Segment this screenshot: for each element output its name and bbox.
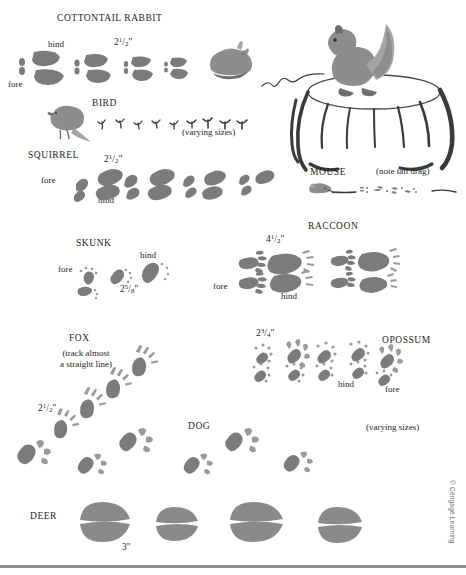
species-label-skunk: SKUNK (76, 239, 111, 249)
opossum-track-group (250, 340, 405, 388)
bird-track-group (96, 115, 248, 135)
species-label-mouse: MOUSE (310, 168, 346, 178)
opossum-measurement: 23/4" (256, 329, 274, 339)
species-label-raccoon: RACCOON (308, 222, 358, 232)
species-label-dog: DOG (188, 422, 210, 432)
rabbit-track-group (14, 44, 194, 89)
opossum-meas-num: 3 (261, 327, 265, 335)
skunk-track-group (68, 258, 178, 300)
squirrel-fore-label: fore (41, 176, 56, 185)
dog-note: (varying sizes) (366, 423, 419, 432)
bottom-rule (0, 565, 466, 568)
copyright-credit: © Cengage Learning (449, 480, 456, 544)
raccoon-track-group (236, 248, 400, 296)
mouse-track-group (332, 183, 460, 197)
deer-track-group (78, 500, 398, 548)
raccoon-fore-label: fore (213, 282, 228, 291)
raccoon-meas-unit: " (280, 234, 284, 244)
opossum-meas-unit: " (270, 328, 274, 338)
rabbit-meas-num: 1 (119, 36, 123, 44)
raccoon-meas-num: 1 (271, 233, 275, 241)
tracks-chart-page: COTTONTAIL RABBIT hind fore 21/2" (0, 0, 466, 575)
squirrel-track-group (72, 160, 272, 202)
bird-illustration (46, 100, 96, 144)
species-label-deer: DEER (30, 512, 57, 522)
rabbit-illustration (203, 40, 258, 80)
mouse-note: (note tail drag) (376, 167, 429, 176)
raccoon-measurement: 41/2" (266, 235, 284, 245)
species-label-cottontail-rabbit: COTTONTAIL RABBIT (57, 14, 162, 24)
dog-track-group (14, 432, 364, 482)
squirrel-on-stump-illustration (288, 22, 466, 174)
mouse-illustration (305, 182, 335, 196)
